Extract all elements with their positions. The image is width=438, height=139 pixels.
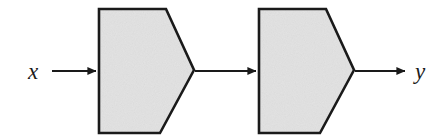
cascade-block-diagram: x y	[0, 0, 438, 139]
figure-container: x y	[0, 0, 438, 139]
output-label-y: y	[413, 59, 426, 84]
figure-background	[0, 0, 438, 139]
input-label-x: x	[27, 59, 39, 84]
